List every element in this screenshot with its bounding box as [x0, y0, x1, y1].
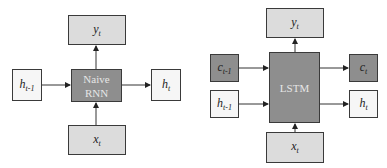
lstm-hidden-next-label: ht [359, 96, 367, 112]
lstm-label: LSTM [280, 81, 309, 95]
rnn-input-box: xt [68, 125, 126, 155]
rnn-hidden-next-label: ht [162, 77, 170, 93]
rnn-hidden-prev-box: ht-1 [12, 69, 42, 101]
lstm-hidden-prev-label: ht-1 [217, 96, 232, 112]
lstm-hidden-next-box: ht [349, 90, 378, 118]
rnn-hidden-next-box: ht [151, 69, 181, 101]
lstm-cell-next-label: ct [360, 60, 368, 76]
connector-arrows [0, 0, 387, 168]
lstm-input-box: xt [266, 132, 324, 163]
lstm-hidden-prev-box: ht-1 [210, 90, 239, 118]
lstm-output-box: yt [266, 8, 324, 38]
lstm-output-label: yt [291, 15, 299, 31]
rnn-hidden-prev-label: ht-1 [20, 77, 35, 93]
rnn-output-box: yt [68, 15, 126, 45]
rnn-output-label: yt [93, 22, 101, 38]
lstm-cell-prev-label: ct-1 [217, 60, 231, 76]
naive-rnn-label-line1: Naive [83, 72, 109, 86]
lstm-cell-next-box: ct [349, 54, 378, 82]
naive-rnn-cell: Naive RNN [71, 69, 122, 102]
lstm-cell: LSTM [269, 52, 320, 123]
rnn-input-label: xt [93, 132, 101, 148]
lstm-cell-prev-box: ct-1 [210, 54, 239, 82]
naive-rnn-label-line2: RNN [85, 86, 108, 100]
lstm-input-label: xt [291, 139, 299, 155]
